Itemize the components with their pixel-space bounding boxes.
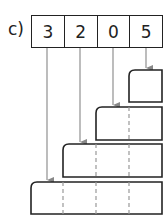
box-1-cell <box>129 70 162 102</box>
diagram-graphics <box>0 0 165 221</box>
box-3-cell <box>63 144 162 177</box>
